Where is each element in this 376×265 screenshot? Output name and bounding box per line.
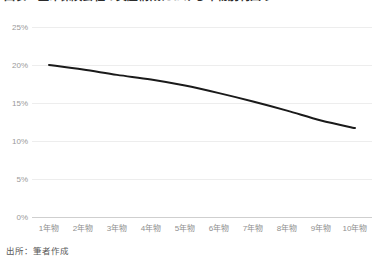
y-tick-label: 20% [2,61,28,70]
y-tick-label: 25% [2,23,28,32]
y-tick-label: 10% [2,137,28,146]
y-tick-label: 0% [2,213,28,222]
x-tick-label: 6年物 [202,222,236,236]
chart-plot-area: 25%20%15%10%5%0% [0,18,376,222]
y-tick-label: 15% [2,99,28,108]
x-tick-label: 10年物 [338,222,372,236]
x-tick-label: 7年物 [236,222,270,236]
x-tick-label: 2年物 [66,222,100,236]
x-tick-label: 8年物 [270,222,304,236]
y-tick-label: 5% [2,175,28,184]
source-note: 出所：筆者作成 [6,246,69,257]
line-series-chart [32,27,372,217]
series-plot [32,27,372,217]
x-tick-label: 4年物 [134,222,168,236]
x-tick-label: 5年物 [168,222,202,236]
gridline-0% [32,217,372,218]
series-line-riyomawari [49,65,355,128]
x-tick-label: 9年物 [304,222,338,236]
chart-title: 図表 生命保険会社の資産構成における年物別利回り [4,0,372,3]
x-tick-label: 3年物 [100,222,134,236]
x-axis-labels: 1年物2年物3年物4年物5年物6年物7年物8年物9年物10年物 [32,222,372,236]
x-tick-label: 1年物 [32,222,66,236]
